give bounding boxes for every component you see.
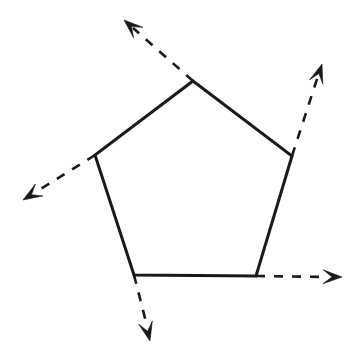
pentagon-outline <box>95 81 292 276</box>
figure-canvas <box>0 0 359 360</box>
exterior-ray-top <box>124 20 193 81</box>
exterior-ray-left-line <box>36 155 95 192</box>
exterior-ray-bottom-left-line <box>134 275 146 322</box>
exterior-ray-right <box>292 64 323 156</box>
exterior-ray-bottom-left <box>134 275 152 341</box>
exterior-ray-left <box>23 155 95 200</box>
exterior-ray-bottom-left-arrowhead <box>139 321 153 341</box>
exterior-ray-right-line <box>292 76 318 156</box>
exterior-ray-bottom-right-line <box>256 276 325 277</box>
exterior-ray-top-line <box>133 28 193 81</box>
exterior-ray-bottom-right <box>256 270 342 284</box>
exterior-rays-group <box>23 20 342 341</box>
pentagon-exterior-angles-figure <box>0 0 359 360</box>
exterior-ray-bottom-right-arrowhead <box>323 270 342 284</box>
exterior-ray-left-arrowhead <box>23 184 43 200</box>
